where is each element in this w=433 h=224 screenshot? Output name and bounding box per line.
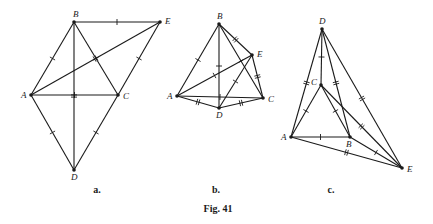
segment-EC <box>252 55 263 98</box>
segment-DB <box>322 29 350 137</box>
point-label-E: E <box>406 164 413 174</box>
point-label-E: E <box>164 16 171 26</box>
point-label-C: C <box>311 77 318 87</box>
point-label-C: C <box>268 94 275 104</box>
subfigure-b-label: b. <box>212 184 221 195</box>
subfigure-a: ABCDE <box>20 9 171 182</box>
subfigure-c: ABCDE <box>280 16 413 174</box>
point-label-E: E <box>256 49 263 59</box>
point-B <box>72 20 76 24</box>
point-label-A: A <box>280 132 287 142</box>
subfigure-c-label: c. <box>328 184 335 195</box>
point-E <box>250 53 254 57</box>
subfigure-a-label: a. <box>93 184 101 195</box>
point-label-A: A <box>166 91 173 101</box>
point-label-C: C <box>123 91 130 101</box>
point-label-B: B <box>217 11 223 21</box>
point-label-D: D <box>70 172 78 182</box>
segment-DA <box>291 29 322 137</box>
figure-canvas: ABCDE ABCDE ABCDE a. b. c. Fig. 41 <box>0 0 433 224</box>
figure-caption: Fig. 41 <box>204 203 233 214</box>
subfigure-b: ABCDE <box>166 11 275 120</box>
point-A <box>175 94 179 98</box>
tick-mark <box>374 150 377 155</box>
point-label-D: D <box>318 16 326 26</box>
point-C <box>261 96 265 100</box>
point-label-A: A <box>20 90 27 100</box>
point-B <box>217 22 221 26</box>
point-label-B: B <box>346 139 352 149</box>
segment-AE <box>31 22 160 95</box>
point-C <box>319 83 323 87</box>
point-label-B: B <box>73 9 79 19</box>
point-E <box>158 20 162 24</box>
segment-DC <box>219 98 263 108</box>
point-A <box>289 135 293 139</box>
point-A <box>29 93 33 97</box>
segment-AD <box>177 96 219 108</box>
point-C <box>116 93 120 97</box>
segment-BE <box>219 24 252 55</box>
point-label-D: D <box>215 110 223 120</box>
point-D <box>320 27 324 31</box>
point-E <box>400 166 404 170</box>
tick-mark <box>233 80 238 83</box>
